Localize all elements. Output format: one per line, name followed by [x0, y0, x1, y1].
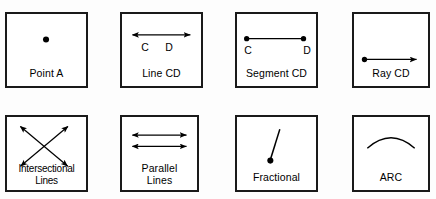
- panel-caption-point-a: Point A: [7, 68, 86, 80]
- panel-caption-parallel-lines: Parallel Lines: [122, 163, 197, 186]
- segment-cd-label-c: C: [241, 45, 255, 56]
- panel-caption-segment-cd: Segment CD: [237, 68, 316, 80]
- line-cd-label-c: C: [138, 42, 152, 53]
- panel-fractional: Fractional: [235, 115, 318, 192]
- panel-parallel-lines: Parallel Lines: [120, 115, 199, 192]
- panel-arc: ARC: [352, 115, 430, 192]
- panel-point-a: Point A: [5, 12, 88, 88]
- panel-caption-intersectional-lines: Intersectional Lines: [7, 163, 86, 186]
- panel-line-cd: C D Line CD: [120, 12, 203, 88]
- geometry-terms-figure: Point A C D Line CD C D Segment CD: [0, 0, 436, 199]
- panel-segment-cd: C D Segment CD: [235, 12, 318, 88]
- panel-caption-ray-cd: Ray CD: [354, 68, 428, 80]
- panel-caption-fractional: Fractional: [237, 172, 316, 184]
- panel-caption-line-cd: Line CD: [122, 68, 201, 80]
- panel-intersectional-lines: Intersectional Lines: [5, 115, 88, 192]
- segment-cd-label-d: D: [300, 45, 314, 56]
- line-cd-label-d: D: [162, 42, 176, 53]
- panel-ray-cd: Ray CD: [352, 12, 430, 88]
- panel-caption-arc: ARC: [354, 172, 428, 184]
